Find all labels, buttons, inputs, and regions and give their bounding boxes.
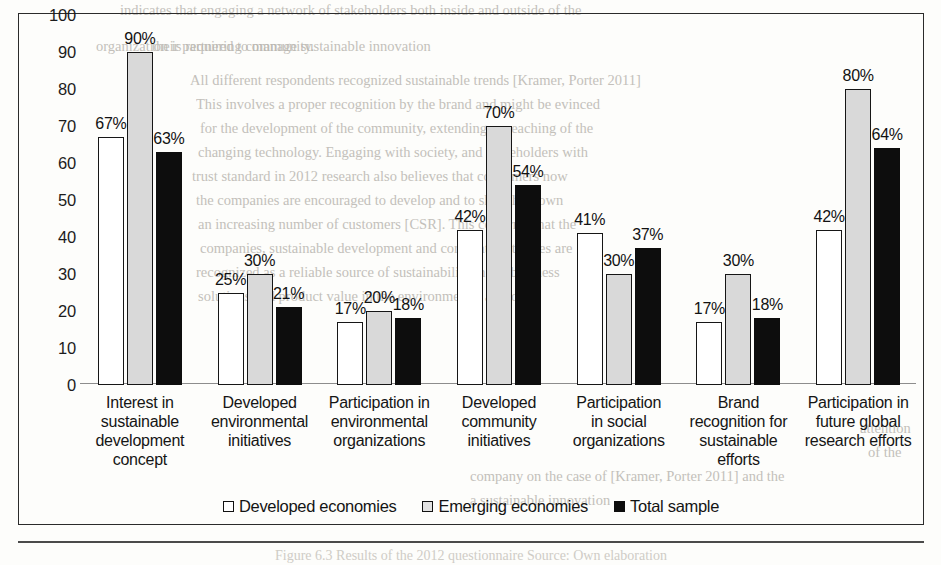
bar-value-label: 42% xyxy=(814,208,845,226)
bar-group-bars: 42%80%64% xyxy=(798,15,918,385)
y-axis-tick-labels: 1009080706050403020100 xyxy=(24,13,76,525)
y-axis-tick-label: 80 xyxy=(32,80,76,99)
bar-group-bars: 25%30%21% xyxy=(200,15,320,385)
x-axis-category-label-line: recognition for xyxy=(671,412,807,431)
x-axis-category-label-line: sustainable xyxy=(671,431,807,450)
chart-legend: Developed economiesEmerging economiesTot… xyxy=(18,497,924,516)
bar-group: 17%20%18% xyxy=(319,15,439,385)
bar-group: 42%80%64% xyxy=(798,15,918,385)
bar-group-bars: 17%20%18% xyxy=(319,15,439,385)
x-axis-category-label-line: Interest in xyxy=(72,393,208,412)
x-axis-category-label-line: initiatives xyxy=(192,431,328,450)
bar-developed-economies[interactable]: 67% xyxy=(98,137,124,385)
bar-emerging-economies[interactable]: 80% xyxy=(845,89,871,385)
x-axis-category-label: Developedenvironmentalinitiatives xyxy=(192,393,328,450)
caption-divider-rule xyxy=(18,541,924,543)
bar-value-label: 25% xyxy=(215,271,246,289)
bar-value-label: 21% xyxy=(273,285,304,303)
x-axis-category-label: Developedcommunityinitiatives xyxy=(431,393,567,450)
bar-developed-economies[interactable]: 42% xyxy=(457,230,483,385)
x-axis-category-label-line: Participation in xyxy=(311,393,447,412)
bar-total-sample[interactable]: 64% xyxy=(874,148,900,385)
bar-total-sample[interactable]: 54% xyxy=(515,185,541,385)
bar-developed-economies[interactable]: 41% xyxy=(577,233,603,385)
bar-value-label: 20% xyxy=(364,289,395,307)
bar-value-label: 64% xyxy=(872,126,903,144)
x-axis-category-label-line: Participation xyxy=(551,393,687,412)
legend-item-label: Emerging economies xyxy=(438,497,588,516)
x-axis-category-label-line: sustainable xyxy=(72,412,208,431)
legend-item-label: Developed economies xyxy=(239,497,397,516)
y-axis-tick-label: 10 xyxy=(32,339,76,358)
bar-value-label: 30% xyxy=(603,252,634,270)
x-axis-category-label-line: Participation in xyxy=(790,393,926,412)
bar-total-sample[interactable]: 63% xyxy=(156,152,182,385)
y-axis-tick-label: 60 xyxy=(32,154,76,173)
bar-value-label: 67% xyxy=(95,115,126,133)
bar-group-bars: 41%30%37% xyxy=(559,15,679,385)
y-axis-tick-label: 90 xyxy=(32,43,76,62)
x-axis-category-label-line: Developed xyxy=(192,393,328,412)
bar-developed-economies[interactable]: 17% xyxy=(696,322,722,385)
bar-value-label: 17% xyxy=(694,300,725,318)
x-axis-category-label: Participation inenvironmentalorganizatio… xyxy=(311,393,447,450)
legend-item[interactable]: Total sample xyxy=(614,497,719,516)
bar-value-label: 30% xyxy=(723,252,754,270)
bar-value-label: 18% xyxy=(752,296,783,314)
bar-value-label: 90% xyxy=(124,30,155,48)
x-axis-category-label: Participationin socialorganizations xyxy=(551,393,687,450)
x-axis-category-label: Interest insustainabledevelopmentconcept xyxy=(72,393,208,469)
bar-value-label: 41% xyxy=(574,211,605,229)
figure-caption: Figure 6.3 Results of the 2012 questionn… xyxy=(18,548,924,564)
bar-chart: 1009080706050403020100 67%90%63%Interest… xyxy=(18,13,924,525)
bar-developed-economies[interactable]: 42% xyxy=(816,230,842,385)
y-axis-tick-label: 30 xyxy=(32,265,76,284)
bar-total-sample[interactable]: 18% xyxy=(754,318,780,385)
legend-item[interactable]: Developed economies xyxy=(223,497,397,516)
bar-group: 25%30%21% xyxy=(200,15,320,385)
bar-emerging-economies[interactable]: 30% xyxy=(247,274,273,385)
y-axis-tick-label: 100 xyxy=(32,6,76,25)
x-axis-category-label-line: efforts xyxy=(671,450,807,469)
bar-group-bars: 67%90%63% xyxy=(80,15,200,385)
bar-emerging-economies[interactable]: 30% xyxy=(606,274,632,385)
x-axis-category-label-line: Developed xyxy=(431,393,567,412)
bar-group: 17%30%18% xyxy=(679,15,799,385)
bar-total-sample[interactable]: 18% xyxy=(395,318,421,385)
bar-total-sample[interactable]: 21% xyxy=(276,307,302,385)
y-axis-tick-label: 50 xyxy=(32,191,76,210)
bar-total-sample[interactable]: 37% xyxy=(635,248,661,385)
bar-value-label: 17% xyxy=(335,300,366,318)
bar-value-label: 42% xyxy=(454,208,485,226)
bar-emerging-economies[interactable]: 30% xyxy=(725,274,751,385)
x-axis-category-label-line: concept xyxy=(72,450,208,469)
bar-emerging-economies[interactable]: 20% xyxy=(366,311,392,385)
legend-item-label: Total sample xyxy=(630,497,719,516)
legend-item[interactable]: Emerging economies xyxy=(422,497,588,516)
x-axis-category-label-line: Brand xyxy=(671,393,807,412)
plot-area: 67%90%63%Interest insustainabledevelopme… xyxy=(80,15,918,385)
x-axis-category-label-line: development xyxy=(72,431,208,450)
bar-value-label: 18% xyxy=(393,296,424,314)
open-square-swatch xyxy=(223,501,234,512)
bar-value-label: 80% xyxy=(843,67,874,85)
bar-developed-economies[interactable]: 17% xyxy=(337,322,363,385)
x-axis-category-label-line: organizations xyxy=(551,431,687,450)
x-axis-category-label-line: environmental xyxy=(311,412,447,431)
bar-emerging-economies[interactable]: 70% xyxy=(486,126,512,385)
x-axis-category-label-line: research efforts xyxy=(790,431,926,450)
x-axis-category-label-line: environmental xyxy=(192,412,328,431)
bar-developed-economies[interactable]: 25% xyxy=(218,293,244,386)
y-axis-tick-label: 20 xyxy=(32,302,76,321)
bar-emerging-economies[interactable]: 90% xyxy=(127,52,153,385)
bar-group-bars: 42%70%54% xyxy=(439,15,559,385)
x-axis-category-label-line: organizations xyxy=(311,431,447,450)
bar-value-label: 30% xyxy=(244,252,275,270)
x-axis-category-label: Brandrecognition forsustainableefforts xyxy=(671,393,807,469)
bar-value-label: 37% xyxy=(632,226,663,244)
bar-group-bars: 17%30%18% xyxy=(679,15,799,385)
bar-value-label: 63% xyxy=(153,130,184,148)
y-axis-tick-label: 0 xyxy=(32,376,76,395)
bar-group: 42%70%54% xyxy=(439,15,559,385)
x-axis-category-label-line: initiatives xyxy=(431,431,567,450)
